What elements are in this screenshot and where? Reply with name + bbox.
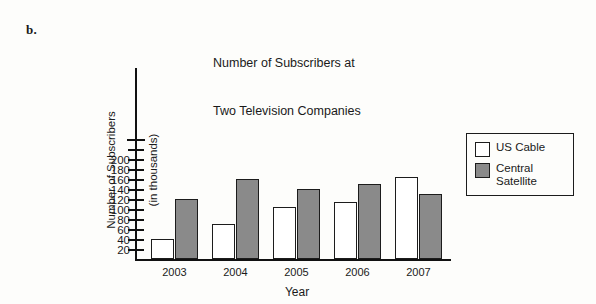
legend-label: Central Satellite (496, 162, 537, 188)
x-axis-tick-label: 2003 (145, 266, 205, 278)
y-axis-tick-label: 180 (100, 165, 130, 176)
y-axis-tick-labels: 20406080100120140160180200 (100, 0, 130, 304)
x-axis-tick-label: 2005 (267, 266, 327, 278)
y-axis-tick-label: 140 (100, 185, 130, 196)
bar (273, 207, 296, 260)
bar (419, 194, 442, 259)
bar (236, 179, 259, 259)
y-axis-tick-label: 200 (100, 155, 130, 166)
legend-swatch (475, 163, 490, 178)
legend-swatch (475, 142, 490, 157)
legend-label: US Cable (496, 141, 545, 154)
y-axis-tick-label: 160 (100, 175, 130, 186)
y-axis-tick-label: 120 (100, 195, 130, 206)
bar (212, 224, 235, 259)
bar (358, 184, 381, 259)
x-axis-tick-label: 2004 (206, 266, 266, 278)
x-axis-line (135, 259, 451, 261)
legend-item: Central Satellite (475, 162, 566, 188)
y-axis-tick-label: 60 (100, 225, 130, 236)
x-axis-tick-label: 2007 (389, 266, 449, 278)
x-axis-tick-label: 2006 (328, 266, 388, 278)
bar (297, 189, 320, 259)
y-axis-tick-label: 20 (100, 245, 130, 256)
bar (334, 202, 357, 260)
y-axis-tick-label: 40 (100, 235, 130, 246)
x-axis-title: Year (262, 285, 332, 299)
y-axis-line (135, 68, 137, 261)
y-axis-tick-label: 100 (100, 205, 130, 216)
legend-item: US Cable (475, 141, 566, 157)
bar (395, 177, 418, 260)
chart-legend: US CableCentral Satellite (466, 133, 574, 196)
bar (151, 239, 174, 259)
y-axis-tick-label: 80 (100, 215, 130, 226)
bar (175, 199, 198, 259)
